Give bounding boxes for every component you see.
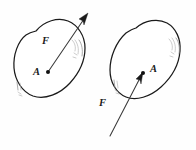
force-arrowhead-left	[79, 13, 88, 25]
rigid-body-outline-right	[110, 20, 180, 98]
left-panel: F A	[14, 13, 88, 97]
point-label-left: A	[32, 66, 40, 77]
mechanics-figure: F A	[0, 0, 196, 150]
force-label-right: F	[98, 97, 106, 108]
point-label-right: A	[149, 63, 157, 74]
rigid-body-outline-left	[14, 19, 85, 97]
application-point-dot-left	[46, 70, 50, 74]
force-label-left: F	[41, 35, 49, 46]
application-point-dot-right	[141, 71, 145, 75]
figure-canvas: F A	[0, 0, 196, 150]
right-panel: A F	[98, 20, 180, 136]
